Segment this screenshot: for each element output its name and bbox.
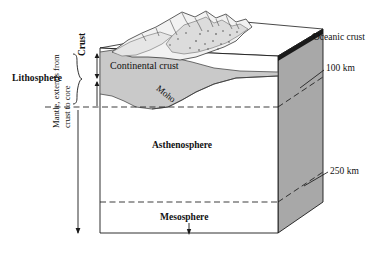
crust-measure-arrow (95, 53, 100, 106)
label-depth-250km: 250 km (330, 167, 359, 177)
label-depth-100km: 100 km (326, 64, 355, 74)
diagram-canvas: Lithosphere Crust Mantle, extends from c… (0, 0, 383, 256)
label-oceanic-crust: Oceanic crust (313, 33, 365, 43)
label-mesosphere: Mesosphere (160, 213, 208, 223)
label-continental-crust: Continental crust (110, 61, 179, 71)
label-asthenosphere: Asthenosphere (152, 141, 212, 151)
label-mantle-line-2: crust to core (63, 86, 72, 128)
block-right-side-face (278, 29, 323, 233)
label-mantle-line-1: Mantle, extends from (52, 54, 61, 128)
label-crust: Crust (78, 33, 88, 56)
mantle-measure-arrow (76, 110, 81, 234)
lithosphere-brace (73, 54, 82, 104)
